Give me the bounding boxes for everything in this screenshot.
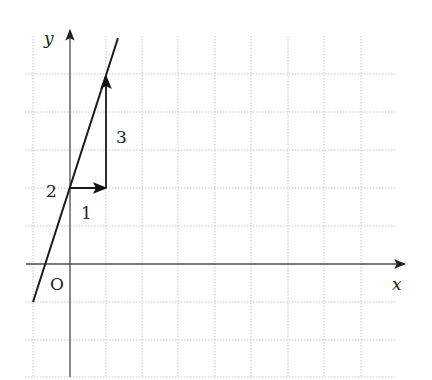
y-axis-label: y (43, 28, 54, 48)
intercept-label: 2 (46, 181, 57, 201)
origin-label: O (50, 274, 64, 294)
coordinate-plane: y x O 2 1 3 (0, 0, 432, 380)
run-label: 1 (81, 203, 92, 223)
x-axis-label: x (392, 274, 402, 294)
rise-label: 3 (116, 127, 127, 147)
